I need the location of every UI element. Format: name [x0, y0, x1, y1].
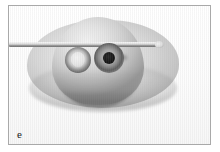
figure-root: e	[0, 0, 220, 152]
smudge-artefact	[119, 54, 128, 61]
horizontal-rod-fibre	[9, 42, 161, 47]
panel-frame: e	[8, 5, 211, 145]
right-ring-dark-pore	[103, 52, 115, 64]
panel-label: e	[17, 128, 22, 140]
left-ring-core	[71, 52, 85, 67]
